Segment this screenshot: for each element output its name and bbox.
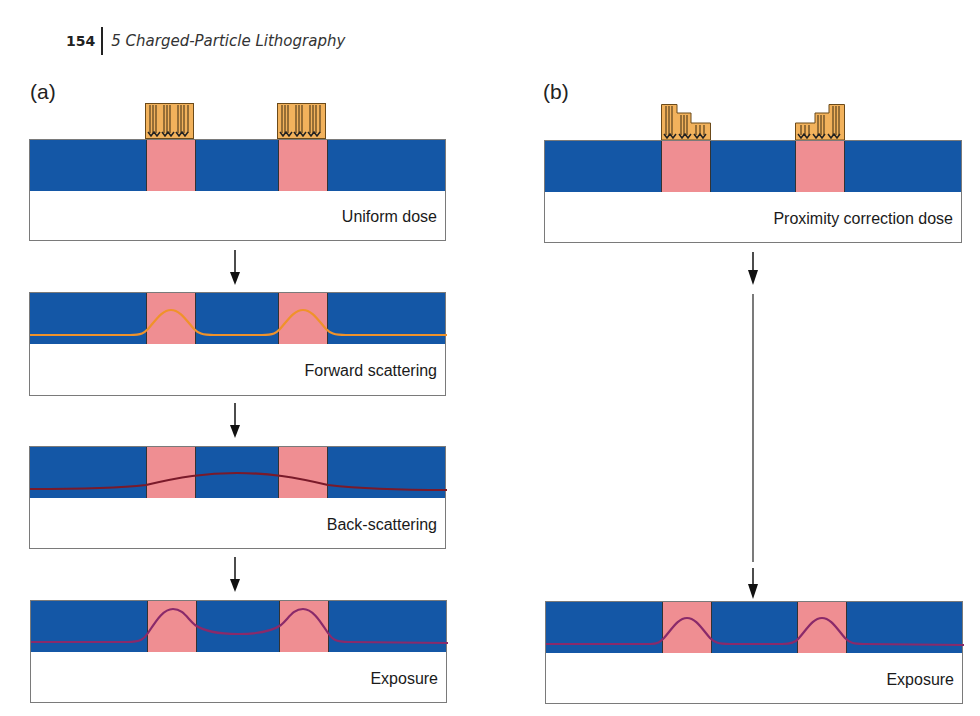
panel-a-forward-scattering: Forward scattering bbox=[29, 292, 446, 396]
page-number: 154 bbox=[66, 33, 95, 49]
step-caption: Exposure bbox=[886, 671, 954, 689]
down-arrow-icon bbox=[229, 250, 241, 286]
exposed-region bbox=[795, 141, 845, 192]
exposed-region bbox=[146, 140, 196, 191]
step-caption: Forward scattering bbox=[305, 362, 438, 380]
running-head: 154 5 Charged-Particle Lithography bbox=[66, 26, 345, 56]
panel-a-uniform-dose: Uniform dose bbox=[29, 139, 446, 241]
exposed-region bbox=[661, 141, 711, 192]
down-arrow-icon bbox=[229, 403, 241, 439]
panel-label-a: (a) bbox=[30, 80, 56, 104]
forward-scatter-profile bbox=[30, 293, 447, 344]
long-down-arrow-icon bbox=[747, 250, 759, 600]
proximity-correction-beam-icon bbox=[661, 104, 712, 141]
back-scatter-profile bbox=[30, 447, 447, 498]
exposure-profile bbox=[31, 601, 448, 652]
header-divider bbox=[101, 27, 103, 55]
uniform-dose-beam-icon bbox=[145, 103, 195, 140]
down-arrow-icon bbox=[229, 557, 241, 593]
step-caption: Back-scattering bbox=[327, 516, 437, 534]
uniform-dose-beam-icon bbox=[277, 103, 327, 140]
step-caption: Uniform dose bbox=[342, 208, 437, 226]
corrected-exposure-profile bbox=[546, 602, 964, 653]
panel-a-back-scattering: Back-scattering bbox=[29, 446, 446, 549]
panel-a-exposure: Exposure bbox=[30, 600, 447, 703]
panel-b-proximity-correction-dose: Proximity correction dose bbox=[544, 140, 962, 243]
exposed-region bbox=[278, 140, 328, 191]
step-caption: Proximity correction dose bbox=[773, 210, 953, 228]
panel-b-exposure: Exposure bbox=[545, 601, 963, 704]
panel-label-b: (b) bbox=[543, 80, 569, 104]
proximity-correction-beam-icon bbox=[795, 104, 846, 141]
step-caption: Exposure bbox=[370, 670, 438, 688]
substrate-layer bbox=[545, 141, 961, 192]
substrate-layer bbox=[30, 140, 445, 191]
chapter-title: 5 Charged-Particle Lithography bbox=[111, 32, 345, 50]
